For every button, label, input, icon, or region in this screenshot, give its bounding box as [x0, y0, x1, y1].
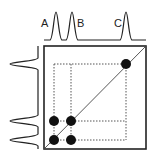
peak-label-b: B [77, 18, 84, 29]
peak-label-c: C [114, 18, 122, 29]
peak-dot [49, 116, 59, 126]
top-1d-spectrum [44, 12, 146, 40]
peak-dot [49, 135, 59, 145]
diagonal-line [44, 46, 146, 149]
left-1d-spectrum [10, 46, 38, 149]
peak-dot [66, 135, 76, 145]
peak-label-a: A [41, 18, 48, 29]
peak-dot [121, 59, 131, 69]
peak-dot [66, 116, 76, 126]
